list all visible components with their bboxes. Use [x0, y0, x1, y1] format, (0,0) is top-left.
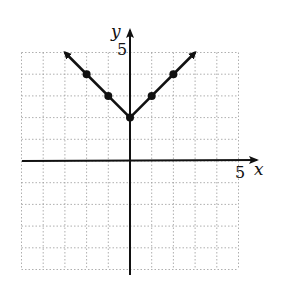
data-point: [126, 114, 134, 122]
x-axis: [22, 160, 257, 161]
coordinate-plane: y 5 5 x: [0, 0, 284, 286]
x-tick-label-5: 5: [235, 163, 245, 182]
right-ray: [130, 53, 195, 118]
data-point: [104, 92, 112, 100]
x-axis-label: x: [254, 159, 264, 179]
left-ray: [65, 53, 130, 118]
y-tick-label-5: 5: [117, 40, 127, 59]
data-point: [148, 92, 156, 100]
data-point: [83, 70, 91, 78]
y-axis-label: y: [110, 21, 121, 41]
data-point: [169, 70, 177, 78]
